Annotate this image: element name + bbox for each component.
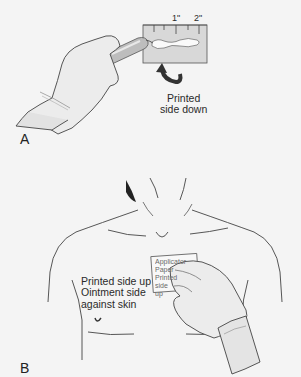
nipple [95, 318, 101, 321]
flip-arrow-icon [156, 63, 181, 82]
nitroglycerin-ointment-application-illustration [0, 0, 301, 377]
ruler-tick-2-inch: 2" [194, 14, 202, 24]
printed-side-down-caption: Printed side down [160, 93, 207, 116]
panel-label-b: B [20, 361, 29, 376]
gloved-hand-a [16, 36, 120, 134]
printed-side-up-caption: Printed side up Ointment side against sk… [81, 276, 151, 310]
panel-a [16, 25, 207, 134]
applicator-paper-text: Applicator Paper Printed side up [155, 258, 189, 298]
applicator-paper-ruler [143, 25, 207, 63]
chin-shadow [126, 180, 136, 202]
panel-label-a: A [20, 132, 29, 147]
ruler-tick-1-inch: 1" [172, 14, 180, 24]
